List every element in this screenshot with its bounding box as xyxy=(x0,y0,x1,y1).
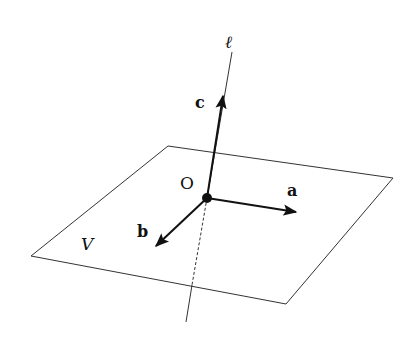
label-vector-c: c xyxy=(195,95,205,111)
origin-point xyxy=(202,193,212,203)
label-vector-b: b xyxy=(137,224,148,240)
vector-a-arrow xyxy=(207,198,296,212)
vector-c-arrow xyxy=(207,96,223,198)
line-l-lower xyxy=(186,285,192,322)
diagram-canvas xyxy=(0,0,414,340)
label-line-l: ℓ xyxy=(225,34,232,51)
label-plane-v: V xyxy=(81,236,93,253)
label-vector-a: a xyxy=(287,183,297,199)
label-origin: O xyxy=(180,175,194,192)
vector-b-arrow xyxy=(156,198,207,246)
vector-plane-diagram: ℓ c O a b V xyxy=(0,0,414,340)
